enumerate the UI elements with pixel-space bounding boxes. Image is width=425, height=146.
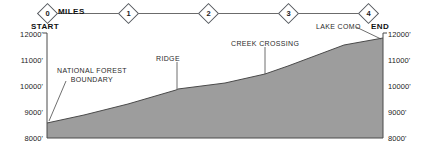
annotation-creek-crossing: CREEK CROSSING [231,39,299,48]
annotation-ridge: RIDGE [156,54,180,63]
annotation-national-forest-boundary-line2: BOUNDARY [57,75,127,84]
elevation-profile-chart: 0 1 2 3 4 MILES START END 12000' 11000' … [0,0,425,146]
annotation-national-forest-boundary: NATIONAL FOREST BOUNDARY [57,66,127,84]
leader-line-national-forest-boundary [49,81,66,121]
terrain-area-fill [47,38,383,138]
annotation-national-forest-boundary-line1: NATIONAL FOREST [57,66,127,75]
annotation-lake-como: LAKE COMO [316,22,361,31]
